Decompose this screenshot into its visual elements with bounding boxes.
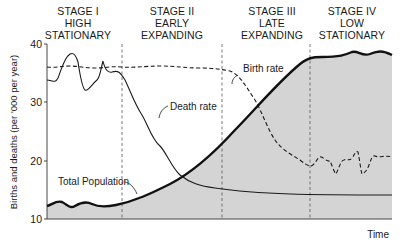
svg-text:STAGE III: STAGE III xyxy=(248,5,295,17)
tick-label-20: 20 xyxy=(30,155,42,167)
stage-2-header: STAGE II EARLY EXPANDING xyxy=(141,5,203,41)
x-axis-title: Time xyxy=(367,229,389,240)
svg-text:STATIONARY: STATIONARY xyxy=(319,29,385,41)
stage-1-header: STAGE I HIGH STATIONARY xyxy=(45,5,111,41)
svg-text:STAGE II: STAGE II xyxy=(150,5,194,17)
total-population-label: Total Population xyxy=(58,176,129,187)
svg-text:EXPANDING: EXPANDING xyxy=(241,29,303,41)
death-rate-label: Death rate xyxy=(170,101,217,112)
svg-text:STAGE IV: STAGE IV xyxy=(328,5,376,17)
svg-text:EXPANDING: EXPANDING xyxy=(141,29,203,41)
demographic-transition-chart: STAGE I HIGH STATIONARY STAGE II EARLY E… xyxy=(0,0,405,247)
svg-text:LOW: LOW xyxy=(340,17,364,29)
tick-label-10: 10 xyxy=(30,213,42,225)
svg-text:STATIONARY: STATIONARY xyxy=(45,29,111,41)
birth-rate-leader xyxy=(232,75,238,84)
birth-rate-label: Birth rate xyxy=(243,63,284,74)
svg-text:LATE: LATE xyxy=(259,17,285,29)
y-axis-title: Births and deaths (per '000 per year) xyxy=(8,55,19,209)
stage-4-header: STAGE IV LOW STATIONARY xyxy=(319,5,385,41)
svg-text:HIGH: HIGH xyxy=(65,17,92,29)
death-rate-leader xyxy=(159,106,168,118)
svg-text:STAGE I: STAGE I xyxy=(57,5,98,17)
stage-3-header: STAGE III LATE EXPANDING xyxy=(241,5,303,41)
tick-label-40: 40 xyxy=(30,38,42,50)
svg-text:EARLY: EARLY xyxy=(155,17,189,29)
tick-label-30: 30 xyxy=(30,96,42,108)
